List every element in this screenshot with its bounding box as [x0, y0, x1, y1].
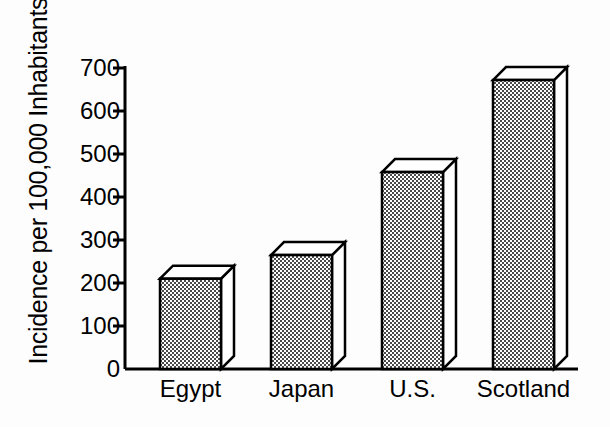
- x-axis-label-scotland: Scotland: [459, 374, 588, 404]
- x-axis-label-japan: Japan: [237, 374, 366, 404]
- bar-top-face: [493, 67, 567, 80]
- bar-top-face: [160, 266, 234, 279]
- bar-side-face: [554, 67, 567, 369]
- bar-front-face: [493, 80, 554, 369]
- bar-front-face: [160, 279, 221, 369]
- x-axis-label-egypt: Egypt: [126, 374, 255, 404]
- bar-front-face: [382, 172, 443, 369]
- plot-area: [0, 0, 610, 427]
- y-axis-ticks: [113, 68, 125, 326]
- bar-chart: Incidence per 100,000 Inhabitants 700600…: [0, 0, 610, 427]
- bar-top-face: [271, 242, 345, 255]
- bar-scotland: [493, 67, 567, 369]
- bar-side-face: [443, 159, 456, 369]
- bar-japan: [271, 242, 345, 369]
- bar-side-face: [332, 242, 345, 369]
- bars-group: [160, 67, 567, 369]
- bar-top-face: [382, 159, 456, 172]
- bar-side-face: [221, 266, 234, 369]
- bar-egypt: [160, 266, 234, 369]
- bar-front-face: [271, 255, 332, 369]
- bar-u-s: [382, 159, 456, 369]
- x-axis-category-labels: EgyptJapanU.S.Scotland: [0, 374, 610, 408]
- x-axis-label-u-s: U.S.: [348, 374, 477, 404]
